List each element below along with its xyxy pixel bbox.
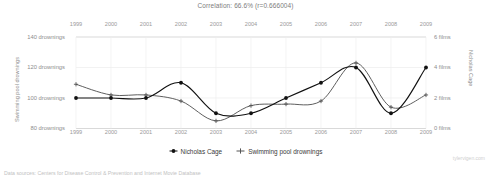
plus-cross-marker xyxy=(236,147,245,155)
x-axis-labels-top: 1999200020012002200320042005200620072008… xyxy=(0,21,491,31)
x-tick-2009: 2009 xyxy=(420,129,432,135)
series-line-swimming-pool-drownings xyxy=(76,63,426,121)
x-tick-2006: 2006 xyxy=(315,21,327,27)
y-tick-right-0: 6 films xyxy=(434,34,451,40)
legend-item-swimming-pool-drownings[interactable]: Swimming pool drownings xyxy=(236,147,322,155)
data-point-marker xyxy=(214,119,218,123)
data-point-marker xyxy=(74,82,78,86)
chart-legend: Nicholas CageSwimming pool drownings xyxy=(0,147,491,155)
x-tick-2005: 2005 xyxy=(280,21,292,27)
x-tick-2005: 2005 xyxy=(280,129,292,135)
data-point-marker xyxy=(319,99,323,103)
data-point-marker xyxy=(389,105,393,109)
data-point-marker xyxy=(144,96,148,100)
x-tick-2002: 2002 xyxy=(175,21,187,27)
x-tick-2009: 2009 xyxy=(420,21,432,27)
chart-title: Correlation: 66.6% (r=0.666004) xyxy=(0,2,491,9)
data-point-marker xyxy=(284,96,288,100)
data-point-marker xyxy=(214,111,218,115)
x-tick-2004: 2004 xyxy=(245,129,257,135)
x-axis-labels-bottom: 1999200020012002200320042005200620072008… xyxy=(0,129,491,139)
data-point-marker xyxy=(109,93,113,97)
x-tick-2002: 2002 xyxy=(175,129,187,135)
x-tick-2008: 2008 xyxy=(385,129,397,135)
x-tick-2007: 2007 xyxy=(350,129,362,135)
data-point-marker xyxy=(389,111,393,115)
x-tick-2001: 2001 xyxy=(140,129,152,135)
x-tick-2000: 2000 xyxy=(105,21,117,27)
data-point-marker xyxy=(284,102,288,106)
legend-label: Nicholas Cage xyxy=(181,148,223,155)
data-point-marker xyxy=(424,66,428,70)
data-point-marker xyxy=(179,81,183,85)
data-point-marker xyxy=(74,96,78,100)
y-axis-right-title: Nicholas Cage xyxy=(468,50,474,86)
data-point-marker xyxy=(144,93,148,97)
y-axis-left-title: Swimming pool drownings xyxy=(14,57,20,122)
x-tick-2003: 2003 xyxy=(210,129,222,135)
filled-diamond-marker xyxy=(169,147,178,155)
data-point-marker xyxy=(424,93,428,97)
y-tick-left-2: 100 drownings xyxy=(27,95,65,101)
data-sources-note: Data sources: Centers for Disease Contro… xyxy=(4,170,201,176)
site-watermark: tylervigen.com xyxy=(453,155,485,161)
data-point-marker xyxy=(354,66,358,70)
y-tick-left-0: 140 drownings xyxy=(27,34,65,40)
data-point-marker xyxy=(109,96,113,100)
y-tick-right-2: 2 films xyxy=(434,95,451,101)
x-tick-1999: 1999 xyxy=(70,21,82,27)
x-tick-1999: 1999 xyxy=(70,129,82,135)
series-line-nicholas-cage xyxy=(76,66,426,116)
spurious-correlation-chart: Correlation: 66.6% (r=0.666004) 19992000… xyxy=(0,0,491,183)
data-point-marker xyxy=(249,104,253,108)
x-tick-2003: 2003 xyxy=(210,21,222,27)
y-tick-right-1: 4 films xyxy=(434,64,451,70)
x-tick-2008: 2008 xyxy=(385,21,397,27)
data-point-marker xyxy=(249,111,253,115)
data-point-marker xyxy=(354,61,358,65)
x-tick-2006: 2006 xyxy=(315,129,327,135)
x-tick-2001: 2001 xyxy=(140,21,152,27)
x-tick-2004: 2004 xyxy=(245,21,257,27)
legend-label: Swimming pool drownings xyxy=(248,148,322,155)
x-tick-2000: 2000 xyxy=(105,129,117,135)
data-point-marker xyxy=(179,99,183,103)
y-tick-right-3: 0 films xyxy=(434,125,451,131)
legend-item-nicholas-cage[interactable]: Nicholas Cage xyxy=(169,147,223,155)
y-tick-left-1: 120 drownings xyxy=(27,64,65,70)
data-point-marker xyxy=(319,81,323,85)
x-tick-2007: 2007 xyxy=(350,21,362,27)
y-tick-left-3: 80 drownings xyxy=(31,125,65,131)
